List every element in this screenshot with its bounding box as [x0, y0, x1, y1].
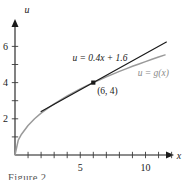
- tangent-equation-label: u = 0.4x + 1.6: [72, 53, 127, 63]
- axes-group: [12, 19, 175, 159]
- curve-equation-label: u = g(x): [138, 68, 169, 79]
- x-tick-label: 10: [141, 162, 151, 173]
- y-axis-arrow-icon: [12, 19, 19, 27]
- figure-container: 510 246 u x u = 0.4x + 1.6 u = g(x) (6, …: [0, 0, 183, 180]
- x-axis-arrow-icon: [166, 152, 174, 159]
- y-axis-label: u: [25, 4, 30, 15]
- y-tick-label: 4: [3, 77, 8, 88]
- x-tick-label: 5: [78, 162, 83, 173]
- x-axis-label: x: [176, 150, 182, 161]
- figure-caption: Figure 2: [8, 172, 47, 180]
- y-tick-label: 2: [3, 113, 8, 124]
- point-coordinates-label: (6, 4): [97, 86, 118, 97]
- y-tick-label: 6: [3, 41, 8, 52]
- y-axis-tick-labels: 246: [3, 41, 8, 124]
- tangency-point-marker: [91, 81, 95, 85]
- plot-area: 510 246 u x u = 0.4x + 1.6 u = g(x) (6, …: [0, 0, 183, 180]
- x-axis-tick-labels: 510: [78, 162, 151, 173]
